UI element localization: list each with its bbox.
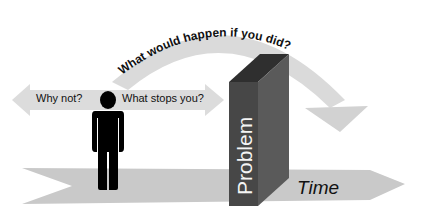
diagram-graphics: What would happen if you did?	[0, 0, 424, 215]
timeline-arrow	[22, 168, 405, 204]
time-label: Time	[297, 177, 339, 199]
problem-label: Problem	[233, 117, 257, 195]
why-not-label: Why not?	[36, 92, 82, 104]
diagram-canvas: What would happen if you did? Why not? W…	[0, 0, 424, 215]
arc-arrow-head	[305, 106, 368, 132]
what-stops-you-label: What stops you?	[122, 92, 204, 104]
